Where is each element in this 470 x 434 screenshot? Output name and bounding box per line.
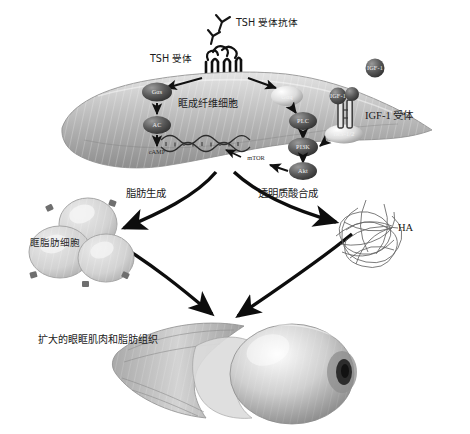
node-gaq-label: Gαq	[281, 93, 292, 100]
diagram-svg: Gαs AC cAMP Gαq PLC PI3K Akt mTOR IRS-1/…	[0, 0, 470, 434]
node-pi3k-label: PI3K	[296, 143, 310, 150]
node-plc-label: PLC	[297, 117, 309, 124]
hyaluronic-acid-network	[336, 200, 402, 268]
igf1-bound-ligand-label: IGF-1	[330, 92, 346, 99]
adipogenesis-label: 脂肪生成	[126, 188, 166, 198]
outcome-branch-arrows	[124, 172, 336, 228]
antibody-y-icon	[208, 15, 230, 44]
node-gas-label: Gαs	[152, 88, 163, 95]
node-akt-label: Akt	[298, 167, 308, 174]
igf1-receptor-label: IGF-1 受体	[365, 111, 413, 122]
igf1-ligand-label: IGF-1	[367, 64, 383, 71]
tsh-antibody-label: TSH 受体抗体	[236, 18, 298, 28]
enlarged-orbital-tissue-label: 扩大的眼眶肌肉和脂肪组织	[38, 335, 158, 345]
igf1-free-ligand: IGF-1	[366, 59, 385, 78]
node-mtor-label: mTOR	[247, 154, 265, 161]
orbital-fibroblast-label: 眶成纤维细胞	[178, 99, 238, 109]
node-ac-label: AC	[153, 121, 162, 128]
node-irs-label: IRS-1/2	[334, 130, 355, 137]
ha-label: HA	[398, 223, 413, 234]
convergence-arrows	[108, 234, 352, 316]
figure-canvas: Gαs AC cAMP Gαq PLC PI3K Akt mTOR IRS-1/…	[0, 0, 470, 434]
node-camp-label: cAMP	[149, 148, 166, 155]
tsh-receptor-label: TSH 受体	[150, 54, 192, 64]
orbital-adipocyte-label: 眶脂肪细胞	[30, 238, 80, 248]
ha-synthesis-label: 透明质酸合成	[258, 188, 318, 198]
